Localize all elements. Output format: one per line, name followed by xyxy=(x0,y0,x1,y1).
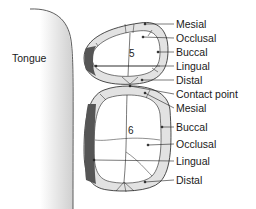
tooth-6-number: 6 xyxy=(128,125,134,136)
label-buccal-6: Buccal xyxy=(176,121,208,133)
label-occlusal-5: Occlusal xyxy=(176,32,216,44)
label-distal-5: Distal xyxy=(176,74,202,86)
dental-diagram: Tongue 5 6 Mesial Occlusal Buccal Lingua… xyxy=(0,0,256,209)
tongue-label: Tongue xyxy=(12,52,46,64)
label-mesial-5: Mesial xyxy=(176,18,206,30)
label-occlusal-6: Occlusal xyxy=(176,138,216,150)
tooth-5 xyxy=(84,22,168,84)
teeth-illustration xyxy=(0,0,256,209)
tongue-shape xyxy=(0,10,73,209)
label-mesial-6: Mesial xyxy=(176,102,206,114)
label-lingual-6: Lingual xyxy=(176,155,210,167)
tooth-6 xyxy=(84,86,171,192)
label-buccal-5: Buccal xyxy=(176,46,208,58)
label-contact-point: Contact point xyxy=(176,88,238,100)
label-lingual-5: Lingual xyxy=(176,60,210,72)
tooth-5-number: 5 xyxy=(129,48,135,59)
label-distal-6: Distal xyxy=(176,174,202,186)
